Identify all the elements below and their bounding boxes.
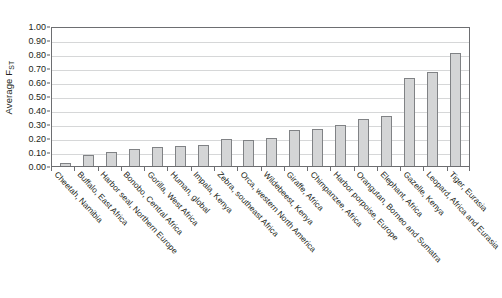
bar-series [52, 28, 469, 166]
y-axis-tick-mark [47, 139, 50, 140]
bar [335, 125, 346, 166]
y-axis-tick-labels: 0.000.100.200.300.400.500.600.700.800.90… [16, 0, 46, 175]
y-axis-tick-mark [47, 111, 50, 112]
bar [60, 163, 71, 166]
bar [404, 78, 415, 166]
bar-slot [77, 28, 100, 166]
bar-slot [54, 28, 77, 166]
bar-slot [238, 28, 261, 166]
y-axis-tick-label: 0.40 [16, 107, 46, 116]
y-axis-tick-mark [47, 69, 50, 70]
y-axis-tick-label: 0.20 [16, 135, 46, 144]
bar [312, 129, 323, 166]
y-axis-tick-mark [47, 83, 50, 84]
y-axis-tick-mark [47, 125, 50, 126]
y-axis-tick-label: 0.50 [16, 93, 46, 102]
y-axis-tick-mark [47, 55, 50, 56]
y-axis-tick-label: 1.00 [16, 23, 46, 32]
bar [129, 149, 140, 166]
bar-slot [444, 28, 467, 166]
y-axis-tick-label: 0.90 [16, 37, 46, 46]
y-axis-tick-mark [47, 41, 50, 42]
bar-slot [398, 28, 421, 166]
bar-slot [123, 28, 146, 166]
bar [289, 130, 300, 166]
bar-slot [306, 28, 329, 166]
bar-slot [215, 28, 238, 166]
y-axis-tick-mark [47, 167, 50, 168]
bar-slot [329, 28, 352, 166]
bar [243, 140, 254, 166]
bar [266, 138, 277, 166]
y-axis-tick-label: 0.70 [16, 65, 46, 74]
y-axis-tick-mark [47, 97, 50, 98]
y-axis-tick-label: 0.30 [16, 121, 46, 130]
y-axis-tick-mark [47, 27, 50, 28]
bar [83, 155, 94, 166]
y-axis-title-subscript: ST [8, 61, 15, 70]
bar [221, 139, 232, 166]
y-axis-title-text: Average FST [3, 61, 16, 115]
y-axis-tick-mark [47, 153, 50, 154]
bar-slot [100, 28, 123, 166]
bar-slot [169, 28, 192, 166]
bar [358, 119, 369, 166]
bar-slot [375, 28, 398, 166]
x-axis-tick-labels: Cheetah, NamibiaBuffalo, East AfricaHarb… [51, 170, 470, 298]
bar-slot [352, 28, 375, 166]
bar [152, 147, 163, 166]
bar [450, 53, 461, 166]
bar [427, 72, 438, 166]
bar-slot [421, 28, 444, 166]
y-axis-tick-label: 0.00 [16, 163, 46, 172]
bar-slot [146, 28, 169, 166]
bar [106, 152, 117, 166]
bar-slot [283, 28, 306, 166]
bar [198, 145, 209, 166]
y-axis-title-main: Average F [3, 70, 14, 115]
bar-slot [260, 28, 283, 166]
y-axis-tick-label: 0.80 [16, 51, 46, 60]
bar-slot [192, 28, 215, 166]
y-axis-tick-label: 0.10 [16, 149, 46, 158]
y-axis-tick-label: 0.60 [16, 79, 46, 88]
bar [381, 116, 392, 166]
bar [175, 146, 186, 166]
plot-area [51, 27, 470, 167]
